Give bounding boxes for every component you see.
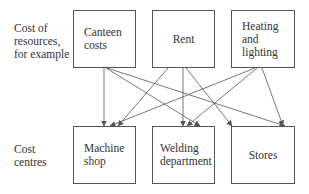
arrow-heating-to-stores	[262, 68, 283, 126]
arrow-rent-to-stores	[186, 68, 232, 126]
arrow-rent-to-machine	[118, 68, 168, 126]
allocation-arrows	[0, 0, 309, 194]
arrow-heating-to-welding	[187, 68, 257, 126]
arrow-heating-to-machine	[110, 68, 255, 126]
arrow-canteen-to-welding	[106, 68, 200, 126]
arrow-canteen-to-stores	[107, 68, 285, 126]
